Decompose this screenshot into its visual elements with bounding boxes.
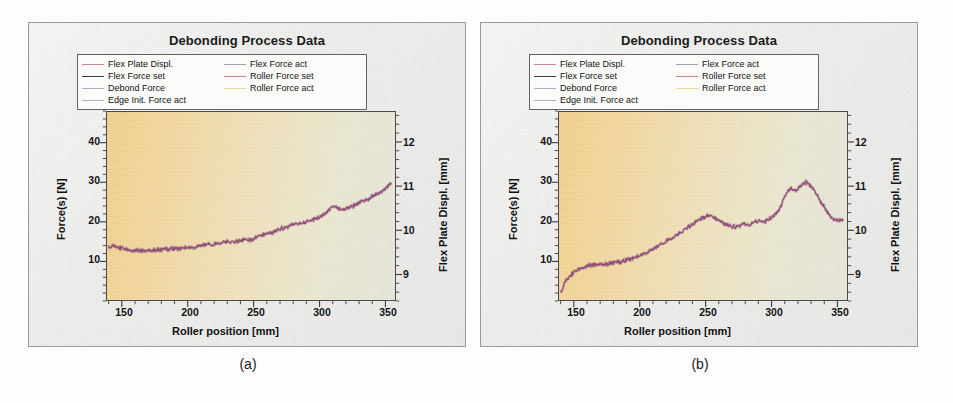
legend-swatch-debond-force bbox=[82, 88, 104, 89]
legend-entry-flex-force-set: Flex Force set bbox=[82, 70, 220, 82]
legend-swatch-flex-force-act bbox=[676, 64, 698, 65]
xtick-150-b: 150 bbox=[556, 306, 596, 318]
legend-label-roller-force-set: Roller Force set bbox=[702, 70, 766, 82]
subfigure-caption-b: (b) bbox=[670, 356, 730, 372]
yaxis-left-title-b: Force(s) [N] bbox=[507, 178, 519, 240]
legend-entry-flex-force-act: Flex Force act bbox=[224, 58, 362, 70]
ytick-right-11-b: 11 bbox=[855, 180, 881, 192]
chart-legend-b: Flex Plate Displ. Flex Force act Flex Fo… bbox=[529, 54, 819, 110]
ytick-left-30-a: 30 bbox=[74, 174, 100, 186]
ytick-left-40-b: 40 bbox=[526, 135, 552, 147]
legend-label-debond-force: Debond Force bbox=[560, 82, 617, 94]
legend-swatch-roller-force-set bbox=[676, 76, 698, 77]
ytick-left-10-b: 10 bbox=[526, 253, 552, 265]
data-curve-b bbox=[559, 112, 847, 300]
legend-entry-flex-plate-displ: Flex Plate Displ. bbox=[82, 58, 220, 70]
ytick-right-10-b: 10 bbox=[855, 224, 881, 236]
ytick-right-12-b: 12 bbox=[855, 136, 881, 148]
legend-entry-roller-force-set: Roller Force set bbox=[676, 70, 814, 82]
legend-entry-flex-plate-displ: Flex Plate Displ. bbox=[534, 58, 672, 70]
legend-entry-debond-force: Debond Force bbox=[534, 82, 672, 94]
yaxis-right-title-b: Flex Plate Displ. [mm] bbox=[889, 158, 901, 272]
legend-swatch-roller-force-act bbox=[676, 88, 698, 89]
legend-swatch-edge-init-force-act bbox=[534, 100, 556, 101]
legend-swatch-flex-force-set bbox=[82, 76, 104, 77]
ytick-right-9-b: 9 bbox=[855, 268, 881, 280]
ytick-left-20-b: 20 bbox=[526, 214, 552, 226]
chart-title-b: Debonding Process Data bbox=[481, 33, 917, 48]
legend-entry-roller-force-act: Roller Force act bbox=[676, 82, 814, 94]
chart-title-a: Debonding Process Data bbox=[29, 33, 465, 48]
legend-entry-edge-init-force-act: Edge Init. Force act bbox=[534, 94, 672, 106]
ytick-left-10-a: 10 bbox=[74, 253, 100, 265]
chart-legend-a: Flex Plate Displ. Flex Force act Flex Fo… bbox=[77, 54, 367, 110]
chart-panel-a: Debonding Process Data Flex Plate Displ.… bbox=[28, 22, 466, 347]
legend-label-edge-init-force-act: Edge Init. Force act bbox=[560, 94, 638, 106]
yaxis-left-title-a: Force(s) [N] bbox=[55, 178, 67, 240]
legend-label-roller-force-act: Roller Force act bbox=[702, 82, 766, 94]
legend-label-flex-force-set: Flex Force set bbox=[108, 70, 165, 82]
legend-swatch-flex-force-set bbox=[534, 76, 556, 77]
legend-entry-flex-force-act: Flex Force act bbox=[676, 58, 814, 70]
plot-area-a bbox=[106, 111, 396, 301]
plot-area-b bbox=[558, 111, 848, 301]
xaxis-title-b: Roller position [mm] bbox=[624, 325, 731, 337]
xtick-300-a: 300 bbox=[302, 306, 342, 318]
yaxis-right-title-a: Flex Plate Displ. [mm] bbox=[437, 158, 449, 272]
subfigure-caption-a: (a) bbox=[218, 356, 278, 372]
legend-label-roller-force-set: Roller Force set bbox=[250, 70, 314, 82]
legend-entry-debond-force: Debond Force bbox=[82, 82, 220, 94]
legend-swatch-flex-plate-displ bbox=[534, 64, 556, 65]
xtick-150-a: 150 bbox=[104, 306, 144, 318]
chart-panel-b: Debonding Process Data Flex Plate Displ.… bbox=[480, 22, 918, 347]
legend-label-flex-force-act: Flex Force act bbox=[702, 58, 759, 70]
xtick-250-a: 250 bbox=[236, 306, 276, 318]
ytick-right-9-a: 9 bbox=[403, 268, 429, 280]
legend-swatch-debond-force bbox=[534, 88, 556, 89]
legend-label-flex-plate-displ: Flex Plate Displ. bbox=[108, 58, 173, 70]
legend-label-roller-force-act: Roller Force act bbox=[250, 82, 314, 94]
figure-root: Debonding Process Data Flex Plate Displ.… bbox=[0, 0, 953, 403]
ytick-right-12-a: 12 bbox=[403, 136, 429, 148]
legend-label-debond-force: Debond Force bbox=[108, 82, 165, 94]
xaxis-title-a: Roller position [mm] bbox=[172, 325, 279, 337]
xtick-300-b: 300 bbox=[754, 306, 794, 318]
legend-label-edge-init-force-act: Edge Init. Force act bbox=[108, 94, 186, 106]
xtick-350-a: 350 bbox=[368, 306, 408, 318]
legend-swatch-flex-plate-displ bbox=[82, 64, 104, 65]
ytick-left-20-a: 20 bbox=[74, 214, 100, 226]
legend-entry-edge-init-force-act: Edge Init. Force act bbox=[82, 94, 220, 106]
legend-label-flex-plate-displ: Flex Plate Displ. bbox=[560, 58, 625, 70]
legend-entry-empty bbox=[224, 94, 362, 106]
ytick-left-40-a: 40 bbox=[74, 135, 100, 147]
legend-entry-roller-force-act: Roller Force act bbox=[224, 82, 362, 94]
ytick-right-10-a: 10 bbox=[403, 224, 429, 236]
legend-label-flex-force-set: Flex Force set bbox=[560, 70, 617, 82]
ytick-left-30-b: 30 bbox=[526, 174, 552, 186]
xtick-200-a: 200 bbox=[170, 306, 210, 318]
legend-entry-empty bbox=[676, 94, 814, 106]
legend-swatch-roller-force-set bbox=[224, 76, 246, 77]
legend-swatch-edge-init-force-act bbox=[82, 100, 104, 101]
xtick-350-b: 350 bbox=[820, 306, 860, 318]
xtick-200-b: 200 bbox=[622, 306, 662, 318]
legend-label-flex-force-act: Flex Force act bbox=[250, 58, 307, 70]
ytick-right-11-a: 11 bbox=[403, 180, 429, 192]
data-curve-a bbox=[107, 112, 395, 300]
legend-swatch-flex-force-act bbox=[224, 64, 246, 65]
legend-entry-roller-force-set: Roller Force set bbox=[224, 70, 362, 82]
xtick-250-b: 250 bbox=[688, 306, 728, 318]
legend-entry-flex-force-set: Flex Force set bbox=[534, 70, 672, 82]
legend-swatch-roller-force-act bbox=[224, 88, 246, 89]
